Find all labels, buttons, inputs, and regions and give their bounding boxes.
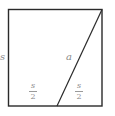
left-half-denominator: 2 [30, 92, 35, 101]
left-half-fraction: s 2 [27, 82, 39, 101]
segment-label-a: a [66, 52, 72, 62]
square-diagram [0, 0, 115, 116]
right-half-numerator: s [77, 82, 81, 91]
side-label-s: s [0, 52, 5, 62]
square-outline [9, 10, 103, 107]
right-half-denominator: 2 [76, 92, 81, 101]
left-half-numerator: s [31, 82, 35, 91]
right-half-fraction: s 2 [73, 82, 85, 101]
